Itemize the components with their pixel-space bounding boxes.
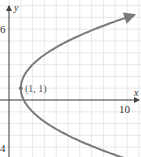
y-axis-label: y [13,2,19,13]
vertex-label: (1, 1) [25,83,47,95]
grid-lines [0,0,141,157]
x-tick-10: 10 [119,103,131,115]
x-axis-label: x [133,87,139,98]
parabola-chart: (1, 1) y x 6 4 10 [0,0,141,157]
y-tick-neg4: 4 [0,142,6,154]
y-tick-6: 6 [0,23,6,35]
vertex-point [19,86,23,90]
